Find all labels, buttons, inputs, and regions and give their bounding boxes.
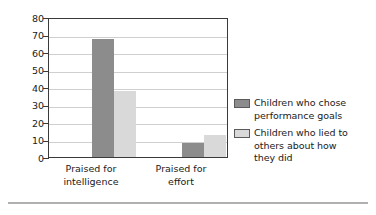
- legend-label-line: performance goals: [254, 110, 346, 123]
- legend-label-line: others about how: [254, 140, 348, 153]
- plot-area: [48, 18, 228, 158]
- y-axis-tick-label: 60: [22, 49, 44, 58]
- bar-group-container: [49, 19, 227, 157]
- x-axis-label-line-0: Praised for: [126, 162, 236, 175]
- legend-swatch-icon: [234, 99, 250, 108]
- bottom-divider-rule: [8, 202, 368, 204]
- x-axis-label-group-1: Praised foreffort: [126, 162, 236, 188]
- bar-series-0-group-1: [182, 143, 204, 157]
- y-axis-tick-label: 10: [22, 136, 44, 145]
- y-axis-tick-label: 70: [22, 31, 44, 40]
- legend-item-label: Children who choseperformance goals: [254, 97, 346, 122]
- legend-item-0[interactable]: Children who choseperformance goals: [234, 97, 376, 122]
- legend-label-line: Children who chose: [254, 97, 346, 110]
- bar-series-0-group-0: [92, 39, 114, 157]
- bar-series-1-group-0: [114, 91, 136, 158]
- legend-label-line: Children who lied to: [254, 127, 348, 140]
- y-axis-tick-label: 50: [22, 66, 44, 75]
- y-axis-tick-label: 40: [22, 84, 44, 93]
- legend-swatch-icon: [234, 129, 250, 138]
- legend-item-1[interactable]: Children who lied toothers about howthey…: [234, 127, 376, 165]
- x-axis-label-line-1: effort: [126, 175, 236, 188]
- y-axis-tick-label: 30: [22, 101, 44, 110]
- legend-item-label: Children who lied toothers about howthey…: [254, 127, 348, 165]
- legend-label-line: they did: [254, 152, 348, 165]
- y-axis-tick-label: 80: [22, 14, 44, 23]
- chart-legend: Children who choseperformance goalsChild…: [234, 97, 376, 170]
- y-axis-tick: [43, 158, 49, 159]
- y-axis-tick-label: 20: [22, 119, 44, 128]
- bar-chart-figure: Percentage of children 01020304050607080…: [0, 0, 376, 215]
- bar-series-1-group-1: [204, 135, 226, 157]
